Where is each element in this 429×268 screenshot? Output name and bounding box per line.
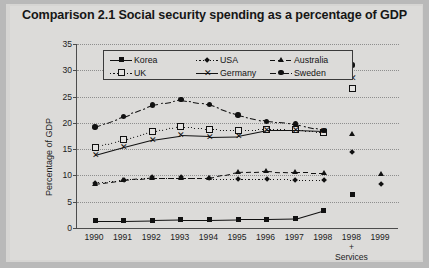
y-axis-tick-label: 0 [46, 223, 72, 233]
series-line-segment [303, 126, 305, 127]
series-line-segment [161, 103, 163, 104]
triangle-marker [278, 57, 284, 62]
circle-marker [278, 70, 283, 75]
y-axis-tick-label: 5 [46, 197, 72, 207]
series-line-segment [216, 60, 217, 61]
circle-marker [92, 124, 97, 129]
series-line-segment [143, 108, 145, 110]
series-line-segment [221, 109, 227, 112]
series-line-segment [275, 122, 277, 123]
series-line-segment [115, 119, 117, 120]
circle-marker [235, 112, 240, 117]
square-marker [119, 57, 124, 62]
series-line-segment [201, 103, 203, 104]
legend-swatch [196, 55, 218, 65]
y-axis-tick-label: 25 [46, 92, 72, 102]
legend-label: UK [134, 68, 146, 78]
y-axis-tick-label: 35 [46, 39, 72, 49]
series-line-segment [130, 73, 131, 74]
legend-label: USA [220, 55, 238, 65]
legend-item-usa[interactable]: USA [196, 54, 238, 67]
x-axis-tick-label: 1999 [360, 232, 400, 242]
y-axis-label: Percentage of GDP [44, 118, 54, 196]
legend-swatch [270, 55, 292, 65]
series-line-segment [103, 124, 105, 125]
legend-label: Sweden [294, 68, 326, 78]
circle-marker [264, 119, 269, 124]
series-line-segment [291, 73, 292, 74]
series-line-segment [131, 113, 133, 115]
series-line-segment [270, 60, 275, 61]
series-line-segment [127, 73, 128, 74]
circle-marker [150, 102, 155, 107]
legend-label: Germany [220, 68, 256, 78]
series-line-segment [107, 121, 113, 124]
legend-item-korea[interactable]: Korea [110, 54, 157, 67]
series-line-segment [246, 117, 248, 118]
circle-marker [321, 128, 326, 133]
series-line-segment [199, 60, 200, 61]
circle-marker [207, 102, 212, 107]
series-line-segment [196, 60, 197, 61]
series-line-segment [250, 118, 256, 120]
legend-item-uk[interactable]: UK [110, 67, 146, 80]
chart-legend: KoreaUSAAustraliaUK✕GermanySweden [103, 50, 353, 80]
series-line-segment [316, 128, 318, 129]
circle-marker [178, 97, 183, 102]
chart-screenshot: Comparison 2.1 Social security spending … [0, 0, 429, 268]
legend-swatch [110, 68, 132, 78]
services-annotation: +Services [321, 243, 381, 262]
x-marker: ✕ [204, 69, 212, 77]
legend-label: Australia [294, 55, 328, 65]
series-line-segment [217, 107, 219, 108]
series-line-segment [135, 110, 141, 113]
legend-item-australia[interactable]: Australia [270, 54, 328, 67]
series-line-segment [258, 120, 260, 121]
circle-marker [121, 114, 126, 119]
legend-item-germany[interactable]: ✕Germany [196, 67, 256, 80]
series-line-segment [165, 102, 171, 104]
open-square-marker [118, 69, 125, 76]
series-line-segment [286, 60, 291, 61]
legend-label: Korea [134, 55, 157, 65]
series-line-segment [270, 73, 276, 74]
series-line-segment [189, 101, 191, 102]
series-line-segment [173, 101, 175, 102]
legend-swatch [110, 55, 132, 65]
series-line-segment [307, 127, 313, 129]
series-line-segment [229, 112, 231, 113]
series-line-segment [113, 73, 114, 74]
legend-item-sweden[interactable]: Sweden [270, 67, 326, 80]
series-line-segment [279, 122, 285, 124]
y-axis-tick-label: 30 [46, 65, 72, 75]
series-line-segment [213, 60, 214, 61]
series-line-segment [110, 73, 111, 74]
legend-swatch [270, 68, 292, 78]
circle-marker [293, 121, 298, 126]
chart-title: Comparison 2.1 Social security spending … [22, 8, 418, 28]
series-line-segment [288, 123, 290, 124]
legend-swatch: ✕ [196, 68, 218, 78]
series-line-segment [193, 102, 199, 104]
